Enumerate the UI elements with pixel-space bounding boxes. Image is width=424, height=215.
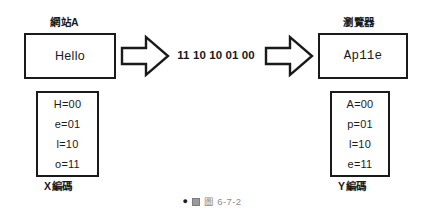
arrow-right-icon	[120, 34, 170, 78]
table-row: e=01	[38, 119, 97, 130]
headphone-icon: ●	[182, 197, 187, 206]
source-node-box: Hello	[24, 33, 116, 79]
table-row: l=10	[332, 139, 388, 150]
source-node-title: 網站A	[50, 17, 79, 28]
image-placeholder-icon	[192, 198, 200, 206]
encoding-table-x-caption: X編碼	[44, 181, 73, 192]
table-row: H=00	[38, 99, 97, 110]
figure-caption: ● 圖 6-7-2	[0, 197, 424, 207]
table-row: o=11	[38, 159, 97, 170]
binary-payload-label: 11 10 10 01 00	[170, 50, 262, 62]
table-row: A=00	[332, 99, 388, 110]
encoding-table-y-caption: Y編碼	[338, 181, 367, 192]
table-row: p=01	[332, 119, 388, 130]
encoding-transmission-diagram: 網站A Hello H=00 e=01 l=10 o=11 X編碼 11 10 …	[0, 0, 424, 215]
table-row: l=10	[38, 139, 97, 150]
destination-node-box: Ap11e	[318, 33, 408, 79]
encoding-table-x: H=00 e=01 l=10 o=11	[36, 91, 99, 177]
encoding-table-y: A=00 p=01 l=10 e=11	[330, 91, 390, 177]
source-node-content: Hello	[55, 50, 85, 63]
arrow-right-icon	[264, 34, 314, 78]
destination-node-content: Ap11e	[344, 50, 383, 63]
table-row: e=11	[332, 159, 388, 170]
destination-node-title: 瀏覽器	[343, 17, 375, 28]
figure-caption-text: 圖 6-7-2	[204, 197, 242, 207]
